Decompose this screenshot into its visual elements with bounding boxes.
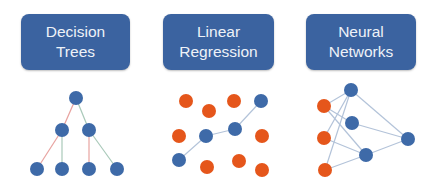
- tree-node: [82, 123, 96, 137]
- data-point-orange: [179, 94, 193, 108]
- data-point-orange: [255, 163, 269, 177]
- diagram-canvas: [0, 0, 438, 193]
- neuron: [345, 116, 359, 130]
- data-point-orange: [232, 154, 246, 168]
- input-neuron: [317, 131, 331, 145]
- network-edge: [351, 90, 408, 139]
- neuron: [401, 132, 415, 146]
- tree-node: [110, 162, 124, 176]
- tree-edge: [89, 130, 117, 169]
- tree-node: [55, 162, 69, 176]
- data-point-orange: [227, 94, 241, 108]
- tree-nodes: [30, 91, 124, 176]
- neuron: [344, 83, 358, 97]
- regression-points: [172, 94, 269, 177]
- data-point-blue: [228, 122, 242, 136]
- data-point-orange: [202, 104, 216, 118]
- input-neuron: [318, 163, 332, 177]
- neuron: [359, 148, 373, 162]
- linear-regression-diagram: [172, 94, 269, 177]
- network-edge: [324, 106, 366, 155]
- data-point-blue: [172, 153, 186, 167]
- regression-line: [179, 101, 261, 160]
- tree-node: [69, 91, 83, 105]
- tree-node: [55, 123, 69, 137]
- neural-network-diagram: [317, 83, 415, 177]
- tree-node: [30, 162, 44, 176]
- data-point-orange: [255, 129, 269, 143]
- data-point-blue: [254, 94, 268, 108]
- tree-edges: [37, 98, 117, 169]
- decision-tree-diagram: [30, 91, 124, 176]
- data-point-blue: [199, 129, 213, 143]
- input-neuron: [317, 99, 331, 113]
- tree-node: [82, 162, 96, 176]
- network-nodes: [317, 83, 415, 177]
- data-point-orange: [200, 160, 214, 174]
- data-point-orange: [172, 129, 186, 143]
